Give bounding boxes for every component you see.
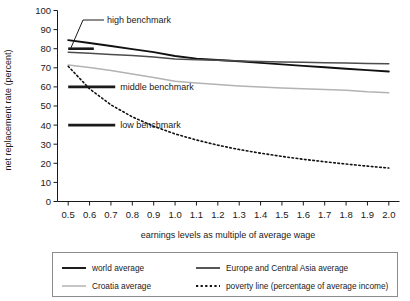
x-tick-label: 1.9 xyxy=(361,209,374,220)
benchmark-label-middle-benchmark: middle benchmark xyxy=(120,82,194,92)
x-tick-label: 0.7 xyxy=(104,209,117,220)
y-tick-label: 20 xyxy=(40,158,51,169)
legend-label-1: Europe and Central Asia average xyxy=(226,263,349,273)
x-tick-label: 1.0 xyxy=(168,209,181,220)
chart-figure: net replacement rate (percent) 010203040… xyxy=(0,0,410,301)
series-line-3 xyxy=(68,66,389,168)
plot-area xyxy=(68,40,389,168)
chart-svg: net replacement rate (percent) 010203040… xyxy=(0,0,410,301)
x-tick-label: 0.8 xyxy=(126,209,139,220)
x-tick-label: 0.9 xyxy=(147,209,160,220)
x-tick-label: 1.4 xyxy=(254,209,267,220)
y-tick-label: 70 xyxy=(40,62,51,73)
y-tick-label: 0 xyxy=(46,196,51,207)
legend-label-3: poverty line (percentage of average inco… xyxy=(226,281,389,291)
y-tick-label: 100 xyxy=(35,5,51,16)
x-tick-label: 2.0 xyxy=(382,209,395,220)
x-tick-label: 1.2 xyxy=(211,209,224,220)
y-tick-label: 80 xyxy=(40,43,51,54)
benchmark-label-low-benchmark: low benchmark xyxy=(120,120,181,130)
y-axis-title-text: net replacement rate (percent) xyxy=(3,49,13,170)
y-tick-label: 10 xyxy=(40,177,51,188)
x-tick-label: 1.5 xyxy=(275,209,288,220)
series-line-0 xyxy=(68,40,389,71)
y-tick-label: 30 xyxy=(40,139,51,150)
y-axis-ticks: 0102030405060708090100 xyxy=(35,5,57,207)
benchmark-annotations: middle benchmarklow benchmarkhigh benchm… xyxy=(68,15,194,130)
benchmark-label-high-benchmark: high benchmark xyxy=(107,15,172,25)
x-tick-label: 1.8 xyxy=(339,209,352,220)
y-tick-label: 40 xyxy=(40,120,51,131)
y-tick-label: 90 xyxy=(40,24,51,35)
x-tick-label: 0.5 xyxy=(62,209,75,220)
x-tick-label: 1.6 xyxy=(297,209,310,220)
x-tick-label: 1.3 xyxy=(233,209,246,220)
x-tick-label: 0.6 xyxy=(83,209,96,220)
high-benchmark-leader-icon xyxy=(70,20,104,50)
y-tick-label: 60 xyxy=(40,81,51,92)
x-tick-label: 1.7 xyxy=(318,209,331,220)
series-line-1 xyxy=(68,52,389,64)
legend-label-0: world average xyxy=(91,263,145,273)
legend: world averageEurope and Central Asia ave… xyxy=(62,263,389,291)
x-axis-title-text: earnings levels as multiple of average w… xyxy=(141,230,316,240)
y-axis-title: net replacement rate (percent) xyxy=(3,49,13,170)
x-axis-ticks: 0.50.60.70.80.91.01.11.21.31.41.51.61.71… xyxy=(62,202,396,220)
x-tick-label: 1.1 xyxy=(190,209,203,220)
legend-label-2: Croatia average xyxy=(92,281,151,291)
y-tick-label: 50 xyxy=(40,100,51,111)
